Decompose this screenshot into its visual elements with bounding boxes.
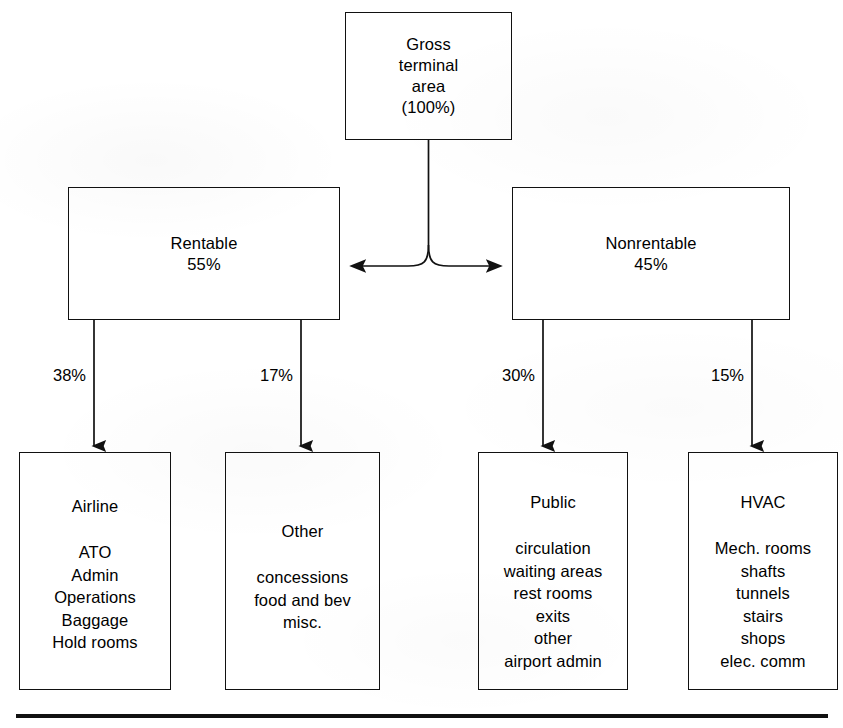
list-item: ATO	[20, 541, 170, 564]
edge-label-hvac: 15%	[680, 366, 744, 385]
list-item: shafts	[689, 560, 837, 583]
node-nonrentable: Nonrentable 45%	[512, 187, 790, 320]
list-item: tunnels	[689, 582, 837, 605]
edge-label-other: 17%	[229, 366, 293, 385]
connector-split-right	[429, 245, 501, 266]
node-public-items: circulationwaiting areasrest roomsexitso…	[479, 537, 627, 672]
list-item: Hold rooms	[20, 631, 170, 654]
list-item: Admin	[20, 564, 170, 587]
list-item: airport admin	[479, 650, 627, 673]
list-item: shops	[689, 627, 837, 650]
list-item: misc.	[226, 611, 379, 634]
node-other-items: concessionsfood and bevmisc.	[226, 566, 379, 634]
terminal-area-diagram: Gross terminal area (100%) Rentable 55% …	[0, 0, 843, 728]
node-gross-terminal-area-title: Gross terminal area (100%)	[346, 34, 511, 118]
list-item: concessions	[226, 566, 379, 589]
node-hvac-items: Mech. roomsshaftstunnelsstairsshopselec.…	[689, 537, 837, 672]
list-item: circulation	[479, 537, 627, 560]
list-item: waiting areas	[479, 560, 627, 583]
node-other-title: Other	[226, 521, 379, 542]
node-hvac: HVAC Mech. roomsshaftstunnelsstairsshops…	[688, 452, 838, 690]
edge-label-airline: 38%	[22, 366, 86, 385]
list-item: exits	[479, 605, 627, 628]
node-other: Other concessionsfood and bevmisc.	[225, 452, 380, 690]
node-airline: Airline ATOAdminOperationsBaggageHold ro…	[19, 452, 171, 690]
list-item: elec. comm	[689, 650, 837, 673]
node-rentable-title: Rentable 55%	[69, 233, 339, 275]
footer-rule	[16, 714, 828, 718]
node-airline-items: ATOAdminOperationsBaggageHold rooms	[20, 541, 170, 654]
node-nonrentable-title: Nonrentable 45%	[513, 233, 789, 275]
list-item: stairs	[689, 605, 837, 628]
node-hvac-title: HVAC	[689, 492, 837, 513]
list-item: Mech. rooms	[689, 537, 837, 560]
list-item: rest rooms	[479, 582, 627, 605]
node-airline-title: Airline	[20, 496, 170, 517]
edge-label-public: 30%	[471, 366, 535, 385]
list-item: food and bev	[226, 589, 379, 612]
list-item: Baggage	[20, 609, 170, 632]
connector-split-left	[352, 245, 429, 266]
node-gross-terminal-area: Gross terminal area (100%)	[345, 12, 512, 140]
node-public-title: Public	[479, 492, 627, 513]
list-item: Operations	[20, 586, 170, 609]
node-public: Public circulationwaiting areasrest room…	[478, 452, 628, 690]
list-item: other	[479, 627, 627, 650]
node-rentable: Rentable 55%	[68, 187, 340, 320]
